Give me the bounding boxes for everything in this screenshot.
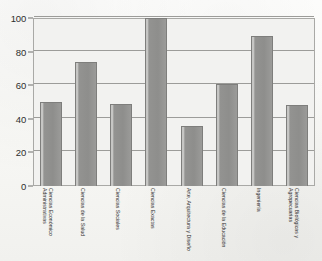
x-axis-category-label: Ciencias de la Salud bbox=[72, 188, 94, 261]
x-axis-category-label: Ciencias Biológicas y Agropecuarias bbox=[283, 188, 305, 261]
bar bbox=[216, 84, 238, 186]
y-axis-tick-label-80: 80 bbox=[16, 46, 26, 57]
x-axis-category-label: Arte, Arquitectura y Diseño bbox=[178, 188, 200, 261]
bar bbox=[75, 62, 97, 186]
bar-chart-figure: 020406080100 Ciencias Económico Administ… bbox=[0, 0, 322, 261]
gridline-100 bbox=[34, 16, 314, 17]
bar bbox=[145, 18, 167, 186]
y-axis-tick-label-60: 60 bbox=[16, 80, 26, 91]
y-axis-tick-label-100: 100 bbox=[11, 13, 26, 24]
y-axis-tick-label-20: 20 bbox=[16, 147, 26, 158]
x-axis-category-label: Ciencias de la Educación bbox=[213, 188, 235, 261]
bars-container bbox=[33, 18, 315, 186]
bar bbox=[251, 36, 273, 186]
y-axis-tick-label-40: 40 bbox=[16, 113, 26, 124]
x-axis-category-labels: Ciencias Económico AdministrativasCienci… bbox=[33, 188, 315, 261]
bar bbox=[286, 105, 308, 186]
y-axis: 020406080100 bbox=[0, 18, 33, 186]
x-axis-category-label: Ciencias Sociales bbox=[107, 188, 129, 261]
x-axis-category-label: Ciencias Exactas bbox=[142, 188, 164, 261]
bar bbox=[181, 126, 203, 186]
y-axis-tick-label-0: 0 bbox=[21, 181, 26, 192]
bar bbox=[40, 102, 62, 186]
x-axis-category-label: Ciencias Económico Administrativas bbox=[37, 188, 59, 261]
bar bbox=[110, 104, 132, 186]
x-axis-category-label: Ingeniería bbox=[248, 188, 270, 261]
